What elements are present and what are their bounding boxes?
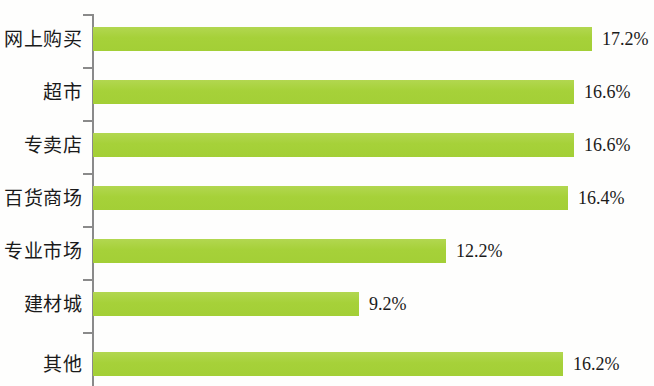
axis-tick-2 [83, 120, 92, 122]
bar-track [93, 186, 568, 210]
axis-tick-3 [83, 173, 92, 175]
bar-fill [93, 27, 592, 51]
bar-track [93, 292, 359, 316]
bar-fill [93, 133, 574, 157]
bar-track [93, 239, 446, 263]
bar-row: 建材城 9.2% [0, 292, 654, 316]
category-label: 超市 [0, 80, 82, 104]
category-label: 建材城 [0, 292, 82, 316]
axis-tick-6 [83, 332, 92, 334]
category-label: 其他 [0, 352, 82, 376]
bar-value-label: 17.2% [602, 27, 649, 51]
bar-fill [93, 239, 446, 263]
bar-fill [93, 80, 574, 104]
bar-track [93, 352, 563, 376]
bar-row: 百货商场 16.4% [0, 186, 654, 210]
category-label: 百货商场 [0, 186, 82, 210]
bar-track [93, 133, 574, 157]
category-label: 专业市场 [0, 239, 82, 263]
axis-tick-0 [83, 14, 92, 16]
bar-row: 专卖店 16.6% [0, 133, 654, 157]
bar-fill [93, 292, 359, 316]
bar-row: 超市 16.6% [0, 80, 654, 104]
bar-row: 专业市场 12.2% [0, 239, 654, 263]
bar-fill [93, 186, 568, 210]
bar-value-label: 12.2% [456, 239, 503, 263]
bar-row: 其他 16.2% [0, 352, 654, 376]
bar-value-label: 16.6% [584, 133, 631, 157]
axis-tick-4 [83, 226, 92, 228]
category-label: 网上购买 [0, 27, 82, 51]
bar-value-label: 16.2% [573, 352, 620, 376]
category-label: 专卖店 [0, 133, 82, 157]
bar-value-label: 16.4% [578, 186, 625, 210]
bar-row: 网上购买 17.2% [0, 27, 654, 51]
horizontal-bar-chart: 网上购买 17.2% 超市 16.6% 专卖店 16.6% 百货商场 16.4%… [0, 0, 654, 386]
axis-tick-1 [83, 67, 92, 69]
bar-value-label: 16.6% [584, 80, 631, 104]
bar-track [93, 27, 592, 51]
bar-track [93, 80, 574, 104]
bar-value-label: 9.2% [369, 292, 407, 316]
axis-tick-5 [83, 279, 92, 281]
bar-fill [93, 352, 563, 376]
